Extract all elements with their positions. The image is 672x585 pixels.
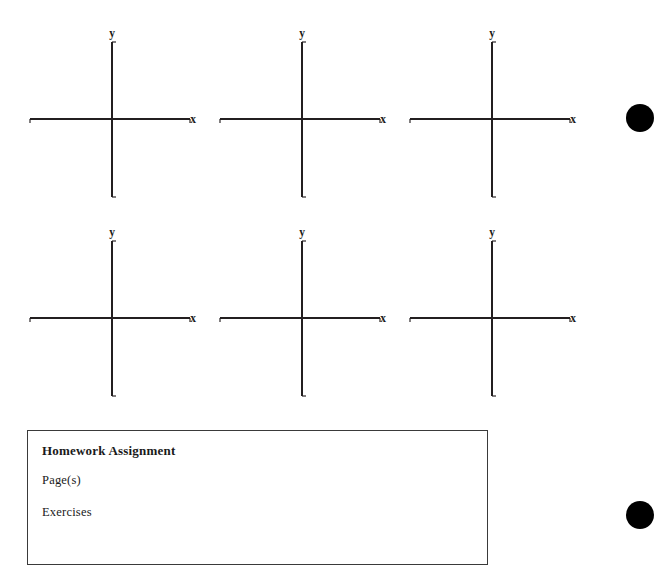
y-axis-label: y [489, 227, 495, 239]
margin-dot-bottom [626, 501, 654, 529]
coordinate-grid-2[interactable]: x y [212, 28, 387, 208]
homework-title: Homework Assignment [42, 443, 175, 459]
coordinate-grid-5[interactable]: x y [212, 227, 387, 407]
y-axis-label: y [109, 28, 115, 40]
coordinate-grid-1[interactable]: x y [22, 28, 197, 208]
homework-assignment-box[interactable]: Homework Assignment Page(s) Exercises [27, 430, 488, 565]
coordinate-axes-svg-1: x y [22, 28, 197, 208]
x-axis-label: x [380, 312, 386, 324]
coordinate-grid-6[interactable]: x y [402, 227, 577, 407]
x-axis-label: x [570, 113, 576, 125]
y-axis-label: y [109, 227, 115, 239]
coordinate-axes-svg-2: x y [212, 28, 387, 208]
coordinate-axes-svg-6: x y [402, 227, 577, 407]
y-axis-label: y [299, 227, 305, 239]
worksheet-page: x y x y x y [0, 0, 672, 585]
homework-pages-label: Page(s) [42, 473, 81, 488]
coordinate-axes-svg-5: x y [212, 227, 387, 407]
coordinate-grid-4[interactable]: x y [22, 227, 197, 407]
y-axis-label: y [299, 28, 305, 40]
margin-dot-top [626, 104, 654, 132]
coordinate-axes-svg-4: x y [22, 227, 197, 407]
x-axis-label: x [570, 312, 576, 324]
x-axis-label: x [190, 312, 196, 324]
coordinate-axes-svg-3: x y [402, 28, 577, 208]
coordinate-grid-3[interactable]: x y [402, 28, 577, 208]
x-axis-label: x [190, 113, 196, 125]
y-axis-label: y [489, 28, 495, 40]
homework-exercises-label: Exercises [42, 505, 92, 520]
x-axis-label: x [380, 113, 386, 125]
